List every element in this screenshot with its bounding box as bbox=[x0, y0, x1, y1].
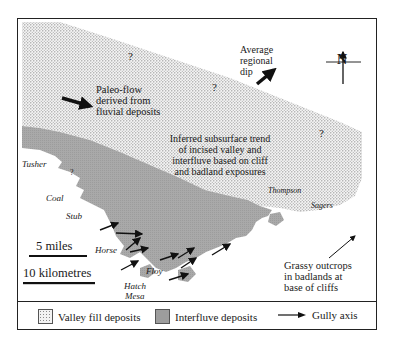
place-coal: Coal bbox=[46, 193, 64, 204]
scale-bar-km bbox=[23, 282, 95, 284]
trend-line: of incised valley and bbox=[155, 144, 285, 155]
place-tusher: Tusher bbox=[22, 159, 47, 170]
paleoflow-line: Paleo-flow bbox=[96, 84, 160, 95]
legend-item-valley-fill: Valley fill deposits bbox=[38, 309, 141, 324]
place-floy: Floy bbox=[146, 266, 163, 277]
grassy-line: Grassy outcrops bbox=[284, 260, 352, 271]
arrow-right-icon bbox=[278, 311, 306, 319]
legend-item-interfluve: Interfluve deposits bbox=[155, 309, 257, 324]
place-thompson: Thompson bbox=[268, 185, 301, 196]
interfluve-islet bbox=[268, 212, 284, 226]
legend: Valley fill deposits Interfluve deposits… bbox=[17, 301, 377, 330]
grassy-outcrops-label: Grassy outcrops in badlands at base of c… bbox=[284, 260, 352, 293]
grassy-line: in badlands at bbox=[284, 271, 352, 282]
trend-line: interfluve based on cliff bbox=[155, 155, 285, 166]
place-stub: Stub bbox=[66, 211, 82, 222]
dip-line: dip bbox=[240, 66, 273, 77]
place-sagers: Sagers bbox=[311, 200, 333, 211]
uncertainty-mark: ? bbox=[128, 51, 133, 62]
scale-bar-miles bbox=[29, 255, 87, 257]
place-horse: Horse bbox=[95, 245, 117, 256]
legend-label: Interfluve deposits bbox=[175, 311, 257, 323]
legend-item-gully-axis: Gully axis bbox=[278, 309, 358, 321]
grassy-outcrops-pointer-icon bbox=[329, 236, 355, 258]
subsurface-trend-label: Inferred subsurface trend of incised val… bbox=[155, 133, 285, 177]
legend-label: Valley fill deposits bbox=[58, 311, 141, 323]
paleoflow-label: Paleo-flow derived from fluvial deposits bbox=[96, 84, 160, 117]
scale-miles-label: 5 miles bbox=[36, 239, 72, 254]
paleoflow-line: fluvial deposits bbox=[96, 106, 160, 117]
uncertainty-mark: ? bbox=[212, 82, 217, 93]
stipple-swatch-icon bbox=[38, 309, 53, 324]
scale-km-label: 10 kilometres bbox=[23, 266, 91, 281]
legend-label: Gully axis bbox=[312, 309, 358, 321]
north-label: N bbox=[337, 54, 347, 65]
gray-swatch-icon bbox=[155, 309, 170, 324]
gully-arrow-icon bbox=[121, 261, 138, 270]
dip-line: Average bbox=[240, 44, 273, 55]
valley-fill-area bbox=[22, 22, 362, 212]
trend-line: and badland exposures bbox=[155, 166, 285, 177]
gully-arrow-icon bbox=[116, 233, 142, 234]
trend-line: Inferred subsurface trend bbox=[155, 133, 285, 144]
paleoflow-line: derived from bbox=[96, 95, 160, 106]
uncertainty-mark: ? bbox=[319, 128, 324, 139]
grassy-line: base of cliffs bbox=[284, 282, 352, 293]
uncertainty-mark: ? bbox=[70, 167, 74, 178]
regional-dip-label: Average regional dip bbox=[240, 44, 273, 77]
dip-line: regional bbox=[240, 55, 273, 66]
